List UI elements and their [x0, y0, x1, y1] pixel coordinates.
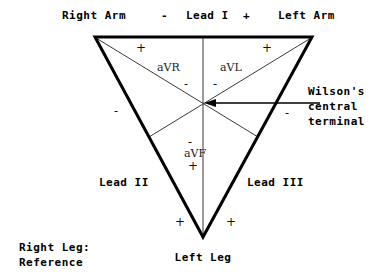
avl-minus-sign: -	[213, 78, 217, 90]
wilson-line-2: central	[308, 101, 358, 112]
right-minus-sign: -	[285, 107, 289, 119]
avr-plus-sign: +	[136, 42, 146, 54]
lead-i-label: Lead I	[186, 10, 229, 21]
avl-axis-line	[149, 38, 311, 137]
lead-ii-label: Lead II	[99, 177, 149, 188]
avr-minus-sign: -	[184, 78, 188, 90]
avr-axis-line	[96, 38, 258, 137]
left-leg-label: Left Leg	[175, 252, 232, 263]
wilson-line-3: terminal	[308, 116, 365, 127]
right-arm-label: Right Arm	[62, 10, 126, 21]
lead-iii-label: Lead III	[247, 177, 304, 188]
lead-i-minus-sign: -	[161, 10, 168, 21]
wilson-line-1: Wilson's	[308, 86, 365, 97]
lead-i-plus-sign: +	[243, 10, 250, 21]
avr-label: aVR	[157, 62, 180, 73]
avf-label: aVF	[184, 148, 206, 159]
bottom-left-plus-sign: +	[175, 216, 185, 228]
left-minus-sign: -	[114, 105, 118, 117]
right-leg-reference-line-2: Reference	[19, 257, 83, 268]
avl-plus-sign: +	[262, 42, 272, 54]
avl-label: aVL	[220, 62, 242, 73]
left-arm-label: Left Arm	[278, 10, 335, 21]
right-leg-reference-line-1: Right Leg:	[19, 242, 90, 253]
avf-plus-sign: +	[188, 160, 198, 172]
einthoven-triangle-svg	[0, 0, 389, 279]
diagram-canvas: Right Arm - Lead I + Left Arm + aVR - + …	[0, 0, 389, 279]
bottom-right-plus-sign: +	[226, 216, 236, 228]
